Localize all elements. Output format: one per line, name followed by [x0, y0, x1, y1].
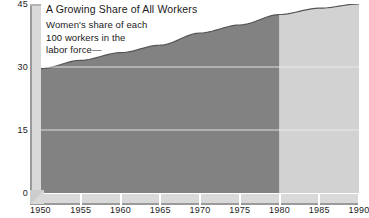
x-tick-mark-1965 — [159, 194, 161, 205]
x-tick-label-1975: 1975 — [229, 205, 250, 216]
y-tick-label-15: 15 — [2, 125, 28, 135]
y-tick-label-0: 0 — [2, 188, 28, 198]
x-tick-mark-1990 — [358, 194, 360, 205]
y-axis-labels: 0153045 — [0, 0, 28, 218]
axis-corner-bevel — [30, 190, 44, 204]
x-tick-mark-1975 — [239, 194, 241, 205]
y-axis-bar — [30, 4, 41, 198]
x-tick-label-1985: 1985 — [309, 205, 330, 216]
area-chart-svg — [41, 4, 359, 193]
y-tick-label-45: 45 — [2, 0, 28, 9]
x-tick-mark-1985 — [318, 194, 320, 205]
area-segment-actual — [41, 15, 280, 194]
x-tick-label-1960: 1960 — [110, 205, 131, 216]
x-tick-label-1950: 1950 — [30, 205, 51, 216]
x-tick-mark-1955 — [80, 194, 82, 205]
x-tick-label-1980: 1980 — [269, 205, 290, 216]
x-axis-labels: 195019551960196519701975198019851990 — [0, 205, 363, 218]
x-tick-mark-1980 — [279, 194, 281, 205]
area-segment-projected — [280, 4, 360, 193]
x-tick-label-1965: 1965 — [150, 205, 171, 216]
series-group — [41, 4, 359, 193]
plot-area — [41, 4, 359, 193]
x-tick-label-1990: 1990 — [349, 205, 369, 216]
x-tick-mark-1970 — [199, 194, 201, 205]
x-tick-label-1970: 1970 — [190, 205, 211, 216]
x-tick-label-1955: 1955 — [70, 205, 91, 216]
y-tick-label-30: 30 — [2, 62, 28, 72]
x-tick-mark-1960 — [120, 194, 122, 205]
y-axis-cap — [30, 4, 41, 6]
